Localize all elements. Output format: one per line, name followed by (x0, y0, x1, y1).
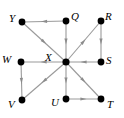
vertex-label-v: V (8, 99, 15, 110)
arrowhead-q-y (41, 20, 47, 23)
vertex-label-x: X (45, 52, 52, 63)
node-v (19, 97, 26, 104)
node-s (98, 59, 105, 66)
arrowhead-s-x (80, 60, 86, 63)
node-u (63, 96, 70, 103)
vertex-label-y: Y (9, 13, 15, 24)
arrowhead-r-s (99, 38, 102, 44)
vertex-label-r: R (105, 11, 112, 22)
vertex-label-w: W (2, 54, 11, 65)
node-y (19, 19, 26, 26)
vertex-label-q: Q (71, 11, 79, 22)
arrowhead-q-x (64, 38, 67, 44)
vertex-label-t: T (107, 99, 113, 110)
node-w (18, 59, 25, 66)
node-r (98, 18, 105, 25)
edge-layer (21, 21, 101, 100)
arrowhead-w-v (20, 78, 23, 84)
arrowhead-u-t (80, 97, 86, 100)
arrowhead-x-u (64, 77, 67, 83)
node-q (63, 18, 70, 25)
graph-figure: YQRWXSVUT (0, 0, 124, 118)
node-x (62, 58, 69, 65)
vertex-label-s: S (106, 55, 112, 66)
vertex-label-u: U (51, 97, 59, 108)
node-t (98, 96, 105, 103)
